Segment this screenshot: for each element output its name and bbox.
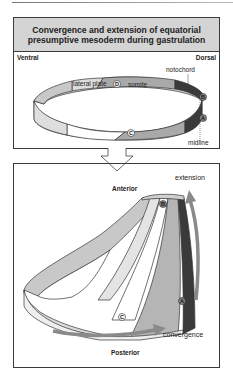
lateral-plate-label: lateral plate: [73, 80, 101, 87]
svg-text:B: B: [201, 94, 205, 100]
convergence-label: convergence: [163, 331, 203, 338]
marker-b-top: B: [200, 94, 207, 101]
marker-d-top: D: [114, 81, 121, 88]
svg-text:D: D: [115, 81, 119, 87]
extension-label: extension: [175, 174, 205, 181]
somite-label: somite: [128, 81, 147, 88]
midline-label: midline: [188, 139, 209, 146]
svg-text:C: C: [129, 130, 133, 136]
svg-text:A: A: [201, 115, 205, 121]
marker-a-top: A: [200, 115, 207, 122]
anterior-label: Anterior: [112, 185, 137, 192]
marker-c-top: C: [128, 130, 135, 137]
notochord-label: notochord: [166, 66, 195, 73]
posterior-label: Posterior: [111, 349, 140, 356]
